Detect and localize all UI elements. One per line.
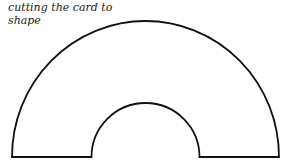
half-annulus-outline	[12, 21, 279, 157]
card-shape-diagram	[0, 0, 283, 166]
